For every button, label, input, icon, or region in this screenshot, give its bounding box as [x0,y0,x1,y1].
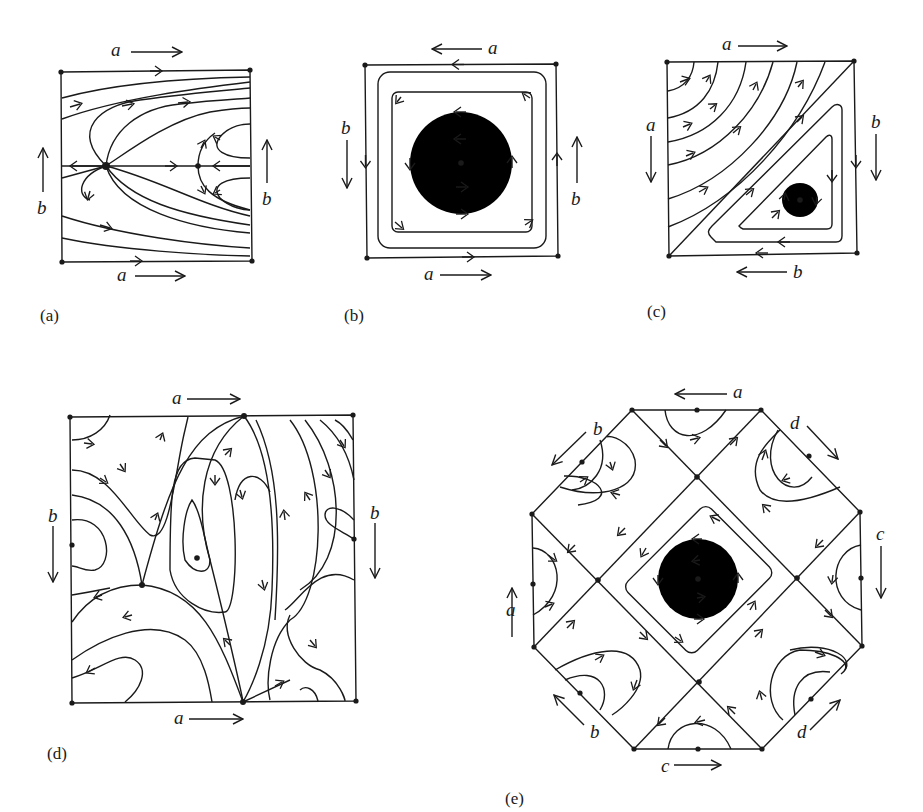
figure-canvas [0,0,923,812]
panel-a-bottom-edge-label: a [117,265,127,284]
panel-d-top-edge-label: a [172,388,182,407]
panel-b-left-edge-label: b [341,118,351,137]
panel-e-lower-right-edge-label: d [797,722,807,741]
panel-a-left-edge-label: b [37,198,47,217]
panel-e-lower-left-edge-label: b [590,722,600,741]
panel-c-right-edge-label: b [871,112,881,131]
panel-c-left-edge-label: a [646,115,656,134]
panel-a-diagram [58,67,254,264]
panel-d-left-edge-label: b [48,506,58,525]
panel-e-upper-right-edge-label: d [790,413,800,432]
panel-c-top-edge-label: a [722,34,732,53]
panel-e-upper-left-edge-label: b [593,419,603,438]
panel-e-left-edge-label: a [506,600,516,619]
panel-e-caption: (e) [505,790,524,807]
panel-a-top-edge-label: a [111,40,121,59]
panel-b-top-edge-label: a [488,38,498,57]
panel-c-bottom-edge-label: b [793,262,803,281]
panel-c-caption: (c) [647,303,666,320]
panel-a-right-edge-label: b [262,189,272,208]
panel-d-diagram [67,412,358,705]
panel-b-right-edge-label: b [571,189,581,208]
panel-e-top-edge-label: a [733,382,743,401]
panel-d-caption: (d) [47,745,67,762]
panel-d-right-edge-label: b [370,503,380,522]
panel-c-diagram [664,58,859,258]
panel-e-bottom-edge-label: c [661,756,669,775]
panel-a-edge-arrows [43,52,267,276]
panel-a-caption: (a) [40,307,59,324]
panel-e-right-edge-label: c [876,524,884,543]
panel-d-bottom-edge-label: a [174,708,184,727]
panel-e-diagram [529,407,864,751]
panel-b-caption: (b) [344,307,364,324]
panel-b-bottom-edge-label: a [424,264,434,283]
panel-b-diagram [362,61,560,260]
